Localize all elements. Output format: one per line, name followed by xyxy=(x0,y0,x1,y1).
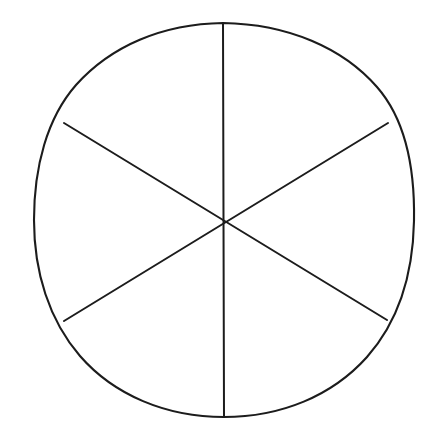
fraction-circle-diagram: Circle divided into six equal sectors A … xyxy=(0,0,443,444)
figure-canvas: Circle divided into six equal sectors A … xyxy=(0,0,443,444)
